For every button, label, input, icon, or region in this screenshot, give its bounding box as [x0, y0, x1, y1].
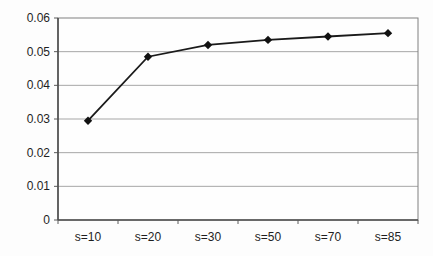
x-tick-label: s=10	[64, 230, 112, 244]
y-tick-label: 0.03	[8, 112, 50, 126]
y-tick-label: 0.05	[8, 45, 50, 59]
x-tick-label: s=20	[124, 230, 172, 244]
y-tick-label: 0.06	[8, 11, 50, 25]
x-tick-label: s=85	[364, 230, 412, 244]
y-tick-label: 0	[8, 213, 50, 227]
x-tick-label: s=50	[244, 230, 292, 244]
y-tick-label: 0.04	[8, 78, 50, 92]
line-chart-figure: 00.010.020.030.040.050.06s=10s=20s=30s=5…	[0, 0, 433, 256]
chart-canvas	[0, 0, 433, 256]
y-tick-label: 0.02	[8, 146, 50, 160]
x-tick-label: s=30	[184, 230, 232, 244]
y-tick-label: 0.01	[8, 179, 50, 193]
x-tick-label: s=70	[304, 230, 352, 244]
